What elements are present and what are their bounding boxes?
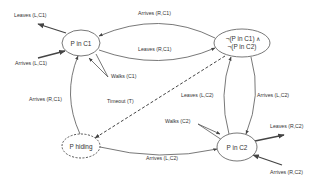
- edge-label: Arrives (L,C1): [15, 60, 47, 66]
- edge-arrives-l-c2-hiding: Arrives (L,C2): [100, 147, 217, 161]
- edge-label: Walks (C1): [111, 73, 137, 79]
- edge-leaves-l-c1: Leaves (L,C1): [14, 12, 66, 33]
- node-label: P in C2: [227, 144, 248, 151]
- edge-walks-c2: Walks (C2): [165, 118, 222, 140]
- node-not-in-either: ¬(P in C1) ∧ ¬(P in C2): [214, 29, 270, 57]
- edge-label: Leaves (L,C2): [181, 92, 214, 98]
- edge-label: Walks (C2): [165, 118, 191, 124]
- edge-label: Arrives (R,C2): [270, 169, 303, 175]
- node-label-line1: ¬(P in C1) ∧: [226, 35, 261, 43]
- node-p-in-c1: P in C1: [62, 30, 100, 56]
- edge-arrives-r-c1-hiding: Arrives (R,C1): [29, 56, 80, 134]
- edge-leaves-r-c1: Leaves (R,C1): [99, 46, 215, 61]
- edge-label: Leaves (L,C1): [14, 12, 47, 18]
- edge-label: Timeout (T): [107, 98, 134, 104]
- node-label: P in C1: [71, 40, 92, 47]
- edge-label: Leaves (R,C2): [270, 123, 304, 129]
- edge-label: Arrives (R,C1): [29, 96, 62, 102]
- node-label: P hiding: [70, 143, 93, 151]
- edge-arrives-l-c1: Arrives (L,C1): [15, 51, 65, 66]
- edge-label: Arrives (L,C2): [146, 155, 178, 161]
- node-p-hiding: P hiding: [62, 134, 100, 158]
- edge-walks-c1: Walks (C1): [89, 54, 137, 79]
- edge-arrives-r-c2: Arrives (R,C2): [253, 155, 303, 175]
- edge-label: Arrives (R,C1): [138, 10, 171, 16]
- edge-arrives-r-c1: Arrives (R,C1): [99, 10, 215, 38]
- node-p-in-c2: P in C2: [217, 133, 257, 161]
- edge-label: Leaves (R,C1): [138, 46, 172, 52]
- edge-leaves-r-c2: Leaves (R,C2): [255, 123, 304, 141]
- edge-label: Arrives (L,C2): [257, 92, 289, 98]
- state-diagram: Leaves (L,C1) Arrives (L,C1) Arrives (R,…: [0, 0, 316, 184]
- node-label-line2: ¬(P in C2): [228, 43, 257, 51]
